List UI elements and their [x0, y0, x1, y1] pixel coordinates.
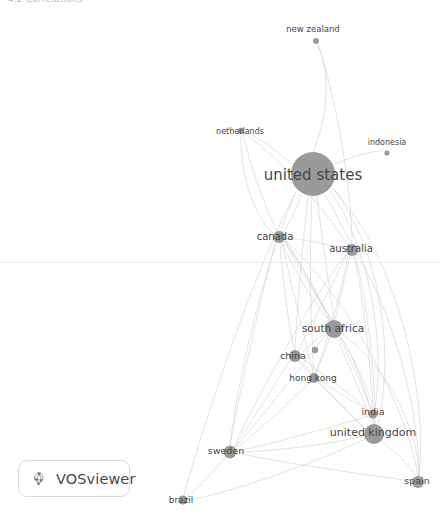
- network-node-label-hong-kong: hong kong: [289, 373, 336, 383]
- network-edge: [230, 243, 275, 445]
- network-edge: [298, 254, 347, 351]
- network-node-indonesia[interactable]: [384, 150, 389, 155]
- network-edge: [230, 192, 296, 445]
- network-node-label-china: china: [280, 350, 306, 361]
- network-edge: [325, 194, 352, 245]
- network-node-label-united-states: united states: [264, 166, 363, 184]
- network-edge: [244, 132, 292, 164]
- network-node-label-spain: spain: [404, 475, 429, 486]
- network-node-label-united-kingdom: united kingdom: [330, 426, 416, 439]
- network-node-label-netherlands: netherlands: [216, 127, 264, 136]
- vosviewer-cluster-icon: [30, 469, 49, 488]
- network-node-label-brazil: brazil: [169, 495, 194, 505]
- network-node-new-zealand[interactable]: [313, 38, 319, 44]
- network-edge: [381, 441, 416, 476]
- vosviewer-badge-label: VOSviewer: [56, 471, 135, 487]
- network-svg[interactable]: new zealandnetherlandsindonesiaunited st…: [0, 0, 440, 511]
- network-node-label-south-africa: south africa: [302, 322, 364, 334]
- network-node-label-australia: australia: [329, 243, 373, 254]
- vosviewer-badge[interactable]: VOSviewer: [18, 460, 130, 497]
- network-node-label-canada: canada: [257, 231, 294, 242]
- network-node-label-new-zealand: new zealand: [286, 24, 340, 34]
- network-edge: [280, 243, 294, 350]
- network-edge: [234, 360, 290, 448]
- network-edge: [357, 255, 419, 476]
- network-edge: [186, 457, 226, 498]
- network-edge: [281, 194, 302, 234]
- network-edge: [313, 44, 326, 152]
- network-node-label-sweden: sweden: [208, 445, 244, 456]
- network-node-unlabeled-node[interactable]: [312, 347, 318, 353]
- network-edge: [236, 382, 310, 449]
- network-node-label-indonesia: indonesia: [368, 138, 407, 147]
- network-edge: [373, 419, 374, 425]
- network-labels: new zealandnetherlandsindonesiaunited st…: [169, 24, 430, 505]
- network-visualization[interactable]: new zealandnetherlandsindonesiaunited st…: [0, 0, 440, 511]
- network-edge: [315, 337, 330, 373]
- network-edge: [335, 151, 386, 164]
- network-node-label-india: india: [361, 406, 384, 417]
